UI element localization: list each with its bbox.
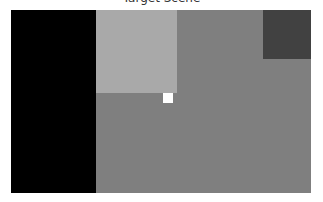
black-region xyxy=(11,10,96,193)
white-square xyxy=(163,93,173,103)
scene-canvas xyxy=(11,10,311,193)
dark-gray-region xyxy=(263,10,311,59)
figure-title: Target Scene xyxy=(0,0,323,5)
light-gray-region xyxy=(96,10,177,93)
